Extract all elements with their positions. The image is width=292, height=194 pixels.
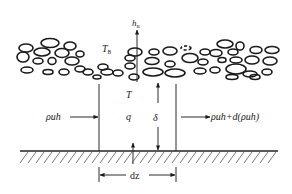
control-volume [99, 84, 176, 151]
inflow-label: ρuh [45, 111, 61, 122]
diagram-canvas: hB TB T q δ ρuh ρuh+d(ρuh) [0, 0, 292, 194]
delta-label: δ [153, 112, 158, 123]
delta-arrows [133, 83, 158, 164]
t-label: T [126, 89, 133, 100]
dz-label: dz [130, 170, 140, 181]
ground-surface [20, 151, 278, 163]
outflow-label: ρuh+d(ρuh) [210, 111, 260, 123]
h-b-label: hB [132, 18, 141, 29]
t-b-label: TB [102, 43, 112, 55]
pebble-layer [17, 39, 279, 81]
q-label: q [126, 111, 131, 122]
